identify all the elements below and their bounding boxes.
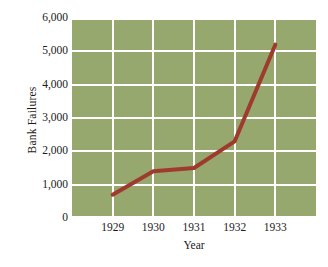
y-axis-tick-labels: 01,0002,0003,0004,0005,0006,000 — [24, 0, 68, 267]
y-tick-label: 1,000 — [24, 179, 68, 191]
x-axis-tick-labels: 19291930193119321933 — [72, 222, 316, 238]
x-tick-label: 1930 — [130, 222, 176, 234]
x-tick-label: 1929 — [90, 222, 136, 234]
y-tick-label: 5,000 — [24, 45, 68, 57]
data-series-line — [72, 18, 316, 218]
bank-failures-line-chart: Bank Failures 01,0002,0003,0004,0005,000… — [0, 0, 328, 267]
plot-area — [72, 18, 316, 218]
y-tick-label: 3,000 — [24, 112, 68, 124]
x-axis-title: Year — [72, 240, 316, 252]
y-tick-label: 6,000 — [24, 12, 68, 24]
x-tick-label: 1933 — [252, 222, 298, 234]
y-tick-label: 4,000 — [24, 79, 68, 91]
y-tick-label: 0 — [24, 212, 68, 224]
x-tick-label: 1931 — [171, 222, 217, 234]
y-tick-label: 2,000 — [24, 145, 68, 157]
x-tick-label: 1932 — [212, 222, 258, 234]
